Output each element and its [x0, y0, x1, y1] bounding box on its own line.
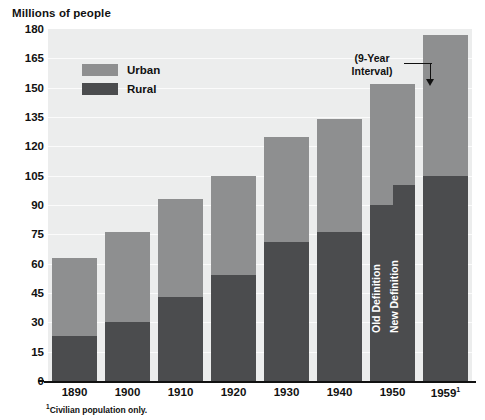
y-axis-tick-label: 90 [4, 199, 44, 211]
bar-segment-rural [211, 275, 256, 381]
x-axis-line [44, 381, 476, 383]
x-axis-tick-label: 1900 [101, 386, 154, 398]
legend-label-rural: Rural [127, 83, 156, 95]
legend-swatch-urban [82, 64, 118, 76]
bar-segment-rural [264, 242, 309, 381]
y-axis-tick-label: 75 [4, 228, 44, 240]
y-axis-tick-label: 180 [4, 23, 44, 35]
chart-container: Millions of people 180165150135120105907… [0, 0, 485, 420]
bar-1950[interactable] [370, 84, 415, 381]
y-axis-tick-label: 165 [4, 52, 44, 64]
y-axis-tick-label: 105 [4, 170, 44, 182]
annotation-arrow-icon [426, 79, 434, 86]
interval-annotation: (9-Year Interval) [336, 52, 408, 78]
bar-segment-rural [105, 322, 150, 381]
new-definition-label: New Definition [388, 260, 400, 333]
y-axis: 1801651501351201059075604530150 [0, 0, 44, 420]
legend-swatch-rural [82, 83, 118, 95]
legend-label-urban: Urban [127, 64, 160, 76]
bar-segment-rural [52, 336, 97, 381]
y-axis-tick-label: 135 [4, 111, 44, 123]
legend-item-rural: Rural [82, 83, 160, 95]
y-axis-tick-label: 45 [4, 287, 44, 299]
bar-1940[interactable] [317, 119, 362, 381]
bar-1959[interactable] [423, 35, 468, 381]
y-axis-tick-label: 15 [4, 346, 44, 358]
y-axis-tick-label: 120 [4, 140, 44, 152]
bar-1890[interactable] [52, 258, 97, 381]
legend: Urban Rural [82, 64, 160, 102]
chart-footnote: 1Civilian population only. [46, 403, 147, 415]
y-axis-tick-label: 60 [4, 258, 44, 270]
bar-1900[interactable] [105, 232, 150, 381]
old-definition-label: Old Definition [370, 264, 382, 333]
y-axis-tick-label: 30 [4, 316, 44, 328]
interval-annotation-line1: (9-Year [336, 52, 408, 65]
x-axis-tick-label: 1930 [260, 386, 313, 398]
bar-1930[interactable] [264, 137, 309, 381]
x-axis-tick-label: 1890 [48, 386, 101, 398]
x-axis-tick-label: 1950 [366, 386, 419, 398]
y-axis-tick-label: 150 [4, 82, 44, 94]
bar-segment-rural [423, 176, 468, 381]
annotation-leader-horizontal [404, 63, 432, 64]
bar-segment-rural [317, 232, 362, 381]
legend-item-urban: Urban [82, 64, 160, 76]
x-axis-tick-label: 1910 [154, 386, 207, 398]
footnote-text: Civilian population only. [50, 405, 148, 415]
bar-1910[interactable] [158, 199, 203, 381]
bar-segment-rural [158, 297, 203, 381]
interval-annotation-line2: Interval) [336, 65, 408, 78]
bar-1920[interactable] [211, 176, 256, 381]
x-axis-tick-label: 1940 [313, 386, 366, 398]
x-axis-tick-label: 1920 [207, 386, 260, 398]
x-axis-tick-label: 19591 [419, 386, 472, 399]
